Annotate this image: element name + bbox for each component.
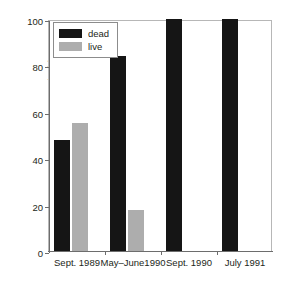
y-tick-label: 80 <box>32 62 43 73</box>
bar-dead-1 <box>110 56 126 251</box>
x-tick-label: July 1991 <box>225 257 266 268</box>
y-tick-mark <box>45 253 49 254</box>
legend-label-live: live <box>88 42 102 52</box>
page-bleed-caption <box>30 272 280 284</box>
y-tick-mark <box>45 160 49 161</box>
y-tick-label: 100 <box>27 16 43 27</box>
legend-swatch-live-icon <box>59 42 82 51</box>
x-tick-label: Sept. 1990 <box>166 257 212 268</box>
y-tick-label: 60 <box>32 108 43 119</box>
x-tick-mark <box>217 251 218 255</box>
x-tick-mark <box>161 251 162 255</box>
y-tick-label: 40 <box>32 155 43 166</box>
bar-dead-0 <box>54 140 70 251</box>
y-tick-mark <box>45 114 49 115</box>
legend-swatch-dead-icon <box>59 29 82 38</box>
legend: dead live <box>53 22 118 58</box>
y-tick-mark <box>45 67 49 68</box>
x-tick-label: May–June1990 <box>101 257 166 268</box>
bar-live-1 <box>128 210 144 251</box>
bar-dead-2 <box>166 19 182 251</box>
x-tick-mark <box>105 251 106 255</box>
x-tick-label: Sept. 1989 <box>54 257 100 268</box>
bar-live-0 <box>72 123 88 251</box>
figure-container: Percent unionids 020406080100 Sept. 1989… <box>0 0 286 287</box>
y-tick-mark <box>45 21 49 22</box>
y-tick-mark <box>45 207 49 208</box>
legend-item-live: live <box>59 40 109 53</box>
legend-label-dead: dead <box>88 29 109 39</box>
bar-dead-3 <box>222 19 238 251</box>
plot-area: 020406080100 Sept. 1989May–June1990Sept.… <box>48 20 272 252</box>
y-tick-label: 0 <box>38 248 43 259</box>
y-tick-label: 20 <box>32 201 43 212</box>
legend-item-dead: dead <box>59 27 109 40</box>
y-axis-line <box>49 21 50 253</box>
